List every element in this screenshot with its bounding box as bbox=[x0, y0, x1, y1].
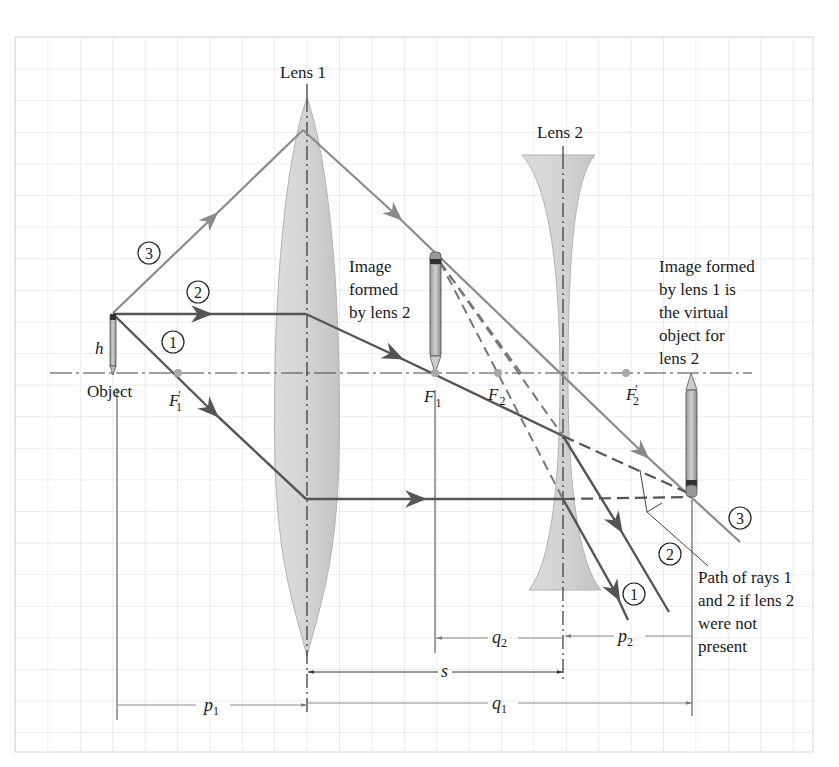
svg-text:by lens 2: by lens 2 bbox=[349, 303, 410, 322]
image-lens1-pencil bbox=[686, 373, 697, 497]
svg-text:lens 2: lens 2 bbox=[659, 349, 699, 368]
lens-2-label: Lens 2 bbox=[537, 123, 583, 142]
focal-dot-f2-prime bbox=[622, 369, 630, 377]
svg-text:2: 2 bbox=[194, 284, 202, 301]
ray-badge-1: 1 bbox=[162, 331, 184, 353]
svg-text:2: 2 bbox=[666, 546, 674, 563]
image-lens2-pencil bbox=[430, 252, 441, 373]
lens-1-label: Lens 1 bbox=[280, 63, 326, 82]
svg-text:1: 1 bbox=[630, 586, 638, 603]
svg-text:3: 3 bbox=[736, 510, 744, 527]
focal-dot-f1-prime bbox=[174, 369, 182, 377]
ray-badge-3: 3 bbox=[138, 242, 160, 264]
object-height-label: h bbox=[95, 339, 104, 358]
ray-badge-3-exit: 3 bbox=[729, 507, 751, 529]
svg-text:Path of rays 1: Path of rays 1 bbox=[698, 568, 792, 587]
svg-text:s: s bbox=[441, 661, 448, 681]
object-pencil bbox=[110, 314, 116, 375]
ray-badge-2: 2 bbox=[187, 281, 209, 303]
object-label: Object bbox=[87, 382, 133, 401]
svg-text:were not: were not bbox=[698, 614, 757, 633]
ray-badge-2-exit: 2 bbox=[659, 543, 681, 565]
svg-text:3: 3 bbox=[145, 245, 153, 262]
svg-text:present: present bbox=[698, 637, 747, 656]
svg-text:object for: object for bbox=[659, 326, 725, 345]
svg-text:Image formed: Image formed bbox=[659, 257, 755, 276]
svg-text:1: 1 bbox=[169, 334, 177, 351]
svg-text:the virtual: the virtual bbox=[659, 303, 729, 322]
svg-text:Image: Image bbox=[349, 257, 391, 276]
focal-dot-f2 bbox=[494, 369, 502, 377]
svg-text:and 2 if lens 2: and 2 if lens 2 bbox=[698, 591, 794, 610]
focal-dot-f1 bbox=[431, 369, 439, 377]
two-lens-ray-diagram: 3 2 1 3 2 1 Lens 1 Lens 2 Object h F′1 F… bbox=[0, 0, 839, 767]
ray-badge-1-exit: 1 bbox=[623, 583, 645, 605]
svg-text:formed: formed bbox=[349, 280, 399, 299]
svg-text:by lens 1 is: by lens 1 is bbox=[659, 280, 736, 299]
